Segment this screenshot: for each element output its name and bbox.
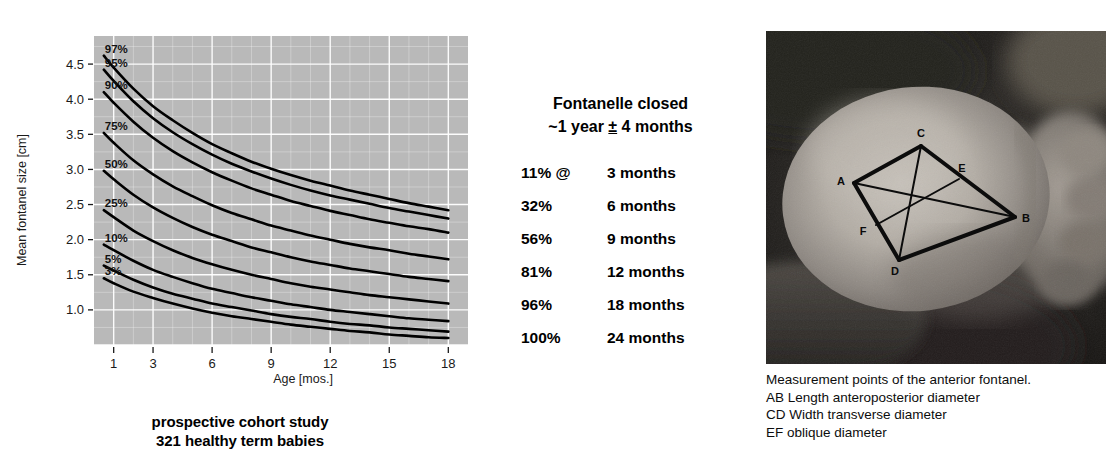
closure-age: 9 months bbox=[607, 230, 676, 248]
curve-label-75pct: 75% bbox=[105, 120, 128, 132]
closure-rate-table: 11% @3 months32%6 months56%9 months81%12… bbox=[521, 156, 761, 354]
photo-caption: Measurement points of the anterior fonta… bbox=[766, 371, 1118, 441]
closure-percentage: 81% bbox=[521, 263, 607, 281]
x-tick-label: 18 bbox=[441, 356, 455, 371]
y-tick-label: 3.5 bbox=[66, 127, 84, 142]
curve-label-25pct: 25% bbox=[105, 197, 128, 209]
closure-rate-row: 56%9 months bbox=[521, 222, 761, 255]
facts-heading-line-2: ~1 year ± 4 months bbox=[483, 115, 758, 138]
photo-canvas: ABCDEF bbox=[766, 31, 1106, 364]
photo-caption-line: CD Width transverse diameter bbox=[766, 406, 1118, 424]
curve-label-97pct: 97% bbox=[105, 43, 128, 55]
photo-caption-line: EF oblique diameter bbox=[766, 424, 1118, 442]
fontanel-point-label-F: F bbox=[860, 225, 867, 237]
y-axis-title: Mean fontanel size [cm] bbox=[15, 134, 29, 266]
y-tick-label: 1.0 bbox=[66, 302, 84, 317]
closure-age: 6 months bbox=[607, 197, 676, 215]
curve-label-3pct: 3% bbox=[105, 265, 122, 277]
y-tick-label: 2.0 bbox=[66, 232, 84, 247]
fontanel-point-label-A: A bbox=[837, 175, 845, 187]
fontanel-point-label-B: B bbox=[1022, 212, 1030, 224]
x-tick-label: 1 bbox=[110, 356, 117, 371]
y-tick-label: 2.5 bbox=[66, 197, 84, 212]
closure-age: 24 months bbox=[607, 329, 685, 347]
y-tick-label: 4.5 bbox=[66, 57, 84, 72]
heading-prefix: ~1 year bbox=[548, 118, 608, 135]
closure-percentage: 32% bbox=[521, 197, 607, 215]
x-axis-ticks: 1369121518 bbox=[110, 347, 455, 371]
facts-heading-line-1: Fontanelle closed bbox=[483, 92, 758, 115]
closure-percentage: 100% bbox=[521, 329, 607, 347]
closure-rate-row: 11% @3 months bbox=[521, 156, 761, 189]
chart-caption: prospective cohort study 321 healthy ter… bbox=[0, 412, 480, 450]
figure-root: 1.01.52.02.53.03.54.04.5 1369121518 97%9… bbox=[0, 0, 1119, 462]
x-tick-label: 9 bbox=[268, 356, 275, 371]
closure-percentage: 96% bbox=[521, 296, 607, 314]
closure-rate-row: 96%18 months bbox=[521, 288, 761, 321]
fontanel-point-label-D: D bbox=[891, 265, 899, 277]
photo-caption-line: Measurement points of the anterior fonta… bbox=[766, 371, 1118, 389]
photo-caption-line: AB Length anteroposterior diameter bbox=[766, 389, 1118, 407]
caption-line-2: 321 healthy term babies bbox=[0, 431, 480, 450]
x-tick-label: 3 bbox=[149, 356, 156, 371]
heading-suffix: 4 months bbox=[617, 118, 693, 135]
fontanel-point-label-E: E bbox=[958, 162, 965, 174]
closure-rate-row: 81%12 months bbox=[521, 255, 761, 288]
fontanelle-closure-facts: Fontanelle closed ~1 year ± 4 months 11%… bbox=[483, 0, 758, 462]
closure-percentage: 56% bbox=[521, 230, 607, 248]
chart-canvas: 1.01.52.02.53.03.54.04.5 1369121518 97%9… bbox=[0, 0, 480, 412]
y-axis-ticks: 1.01.52.02.53.03.54.04.5 bbox=[66, 57, 93, 318]
x-tick-label: 15 bbox=[382, 356, 396, 371]
curve-label-5pct: 5% bbox=[105, 253, 122, 265]
y-tick-label: 1.5 bbox=[66, 267, 84, 282]
curve-label-50pct: 50% bbox=[105, 158, 128, 170]
facts-heading: Fontanelle closed ~1 year ± 4 months bbox=[483, 92, 758, 138]
closure-rate-row: 32%6 months bbox=[521, 189, 761, 222]
x-axis-title: Age [mos.] bbox=[273, 372, 333, 386]
x-tick-label: 12 bbox=[323, 356, 337, 371]
fontanel-percentile-chart: 1.01.52.02.53.03.54.04.5 1369121518 97%9… bbox=[0, 0, 480, 462]
fontanel-point-label-C: C bbox=[917, 127, 925, 139]
curve-label-90pct: 90% bbox=[105, 79, 128, 91]
closure-age: 3 months bbox=[607, 164, 676, 182]
closure-age: 18 months bbox=[607, 296, 685, 314]
x-tick-label: 6 bbox=[208, 356, 215, 371]
curve-label-95pct: 95% bbox=[105, 57, 128, 69]
caption-line-1: prospective cohort study bbox=[0, 412, 480, 431]
infant-head-photograph: ABCDEF bbox=[766, 31, 1106, 364]
y-tick-label: 3.0 bbox=[66, 162, 84, 177]
y-tick-label: 4.0 bbox=[66, 92, 84, 107]
closure-rate-row: 100%24 months bbox=[521, 321, 761, 354]
closure-percentage: 11% @ bbox=[521, 164, 607, 182]
curve-label-10pct: 10% bbox=[105, 232, 128, 244]
plus-minus-symbol: ± bbox=[608, 118, 617, 135]
closure-age: 12 months bbox=[607, 263, 685, 281]
